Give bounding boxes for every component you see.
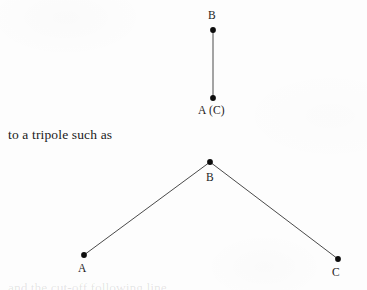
tripole-node-c-dot <box>335 256 341 262</box>
tripole-edge-a-to-b <box>84 162 210 255</box>
tripole-node-a-dot <box>81 252 87 258</box>
tripole-node-b-dot <box>207 159 213 165</box>
clipped-next-line: and the cut-off following line <box>8 281 167 290</box>
scanned-page: B A (C) to a tripole such as B A C and t… <box>0 0 367 290</box>
tripole-node-a-label: A <box>78 263 87 275</box>
tripole-edge-b-to-c <box>210 162 338 259</box>
tripole-diagram <box>0 0 367 290</box>
tripole-node-b-label: B <box>206 172 214 184</box>
tripole-node-c-label: C <box>332 267 340 279</box>
